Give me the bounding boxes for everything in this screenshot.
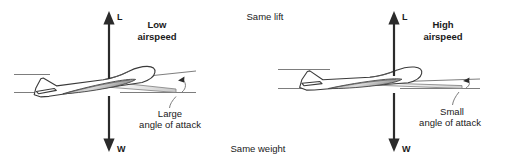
condition-label-left-line2: airspeed <box>137 31 176 42</box>
aoa-leader-left <box>170 97 177 109</box>
condition-label-right-line2: airspeed <box>423 31 462 42</box>
aoa-arc-head-left <box>178 77 185 83</box>
weight-arrow-left <box>103 96 114 152</box>
weight-label-right: W <box>402 144 411 154</box>
aoa-label-right-line1: Small <box>440 106 464 117</box>
condition-label-left-line1: Low <box>148 19 168 30</box>
aircraft-silhouette-right <box>299 65 423 91</box>
aoa-label-left-line1: Large <box>158 108 182 119</box>
lift-arrow-head-left <box>103 11 114 25</box>
lift-arrow-head-right <box>388 11 399 25</box>
aoa-label-right-line2: angle of attack <box>419 117 481 128</box>
lift-arrow-right <box>388 11 399 76</box>
weight-arrow-head-right <box>388 139 399 153</box>
aircraft-silhouette-left <box>32 64 156 98</box>
lift-label-left: L <box>117 12 123 22</box>
condition-label-right-line1: High <box>432 19 453 30</box>
aoa-comparison-diagram: L W Low airspeed Large angle of attack S… <box>0 0 517 164</box>
aoa-leader-right <box>453 92 460 105</box>
aoa-arc-head-right <box>463 78 470 84</box>
weight-label-left: W <box>117 144 126 154</box>
same-lift-label: Same lift <box>247 11 284 22</box>
panel-high-airspeed: L W High airspeed Small angle of attack <box>278 11 481 154</box>
lift-label-right: L <box>402 12 408 22</box>
lift-arrow-left <box>103 11 114 79</box>
panel-low-airspeed: L W Low airspeed Large angle of attack <box>14 11 201 154</box>
fuselage-outline-left <box>32 64 156 98</box>
same-weight-label: Same weight <box>231 143 286 154</box>
weight-arrow-right <box>388 93 399 152</box>
aoa-arc-arrow-left <box>178 77 185 93</box>
aoa-label-left-line2: angle of attack <box>139 119 201 130</box>
weight-arrow-head-left <box>103 139 114 153</box>
diagram-canvas: L W Low airspeed Large angle of attack S… <box>0 0 517 164</box>
